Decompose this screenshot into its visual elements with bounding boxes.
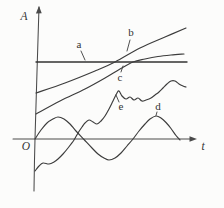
leader-d bbox=[156, 112, 157, 116]
curve-label-a: a bbox=[77, 38, 82, 50]
amplitude-vs-time-figure: a b c d e A O t bbox=[0, 0, 224, 208]
curve-c bbox=[36, 54, 184, 114]
curve-b bbox=[36, 28, 186, 93]
curve-label-e: e bbox=[119, 100, 124, 112]
leader-a bbox=[81, 51, 85, 60]
y-axis-title: A bbox=[19, 10, 28, 22]
curve-label-d: d bbox=[155, 100, 161, 112]
curve-e bbox=[35, 81, 186, 171]
origin-label: O bbox=[22, 140, 31, 152]
y-axis bbox=[34, 7, 39, 191]
x-axis-title: t bbox=[201, 140, 205, 152]
curve-label-c: c bbox=[118, 71, 123, 83]
curve-d bbox=[35, 116, 180, 160]
leader-b bbox=[127, 40, 130, 51]
figure-canvas: a b c d e A O t bbox=[0, 0, 224, 208]
x-axis-arrow-icon bbox=[190, 136, 198, 141]
curve-label-b: b bbox=[128, 26, 134, 38]
y-axis-arrow-icon bbox=[36, 6, 42, 14]
